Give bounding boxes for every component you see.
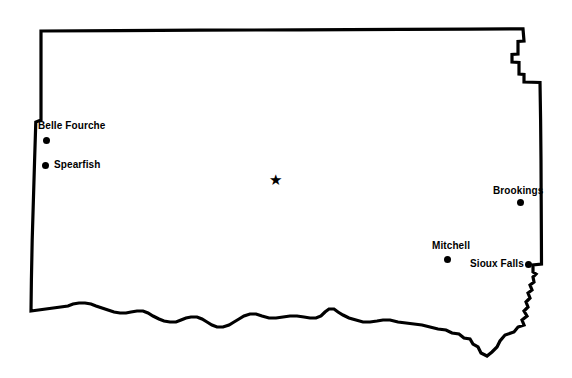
capital-star-icon: ★ <box>269 172 282 187</box>
city-label-mitchell: Mitchell <box>432 240 470 251</box>
city-label-belle-fourche: Belle Fourche <box>38 120 105 131</box>
city-label-brookings: Brookings <box>493 185 543 196</box>
city-dot-icon-sioux-falls <box>525 261 532 268</box>
city-dot-icon-brookings <box>517 199 524 206</box>
city-dot-icon-mitchell <box>444 256 451 263</box>
city-label-sioux-falls: Sioux Falls <box>470 258 524 269</box>
city-label-spearfish: Spearfish <box>54 159 100 170</box>
city-dot-icon-belle-fourche <box>43 137 50 144</box>
south-dakota-map: ★ Belle Fourche Spearfish Brookings Mitc… <box>0 0 572 378</box>
city-marker-layer: ★ Belle Fourche Spearfish Brookings Mitc… <box>0 0 572 378</box>
city-dot-icon-spearfish <box>42 162 49 169</box>
